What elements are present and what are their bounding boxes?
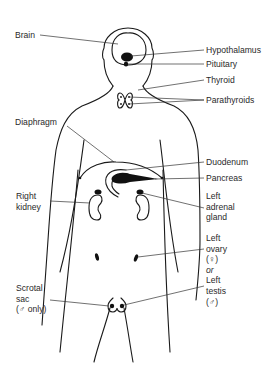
label-pancreas: Pancreas [206, 173, 242, 184]
label-line: gland [206, 212, 235, 223]
label-pituitary: Pituitary [206, 59, 237, 70]
left-adrenal-gland [137, 190, 144, 195]
label-line: Right [16, 191, 41, 202]
left-testis [120, 304, 124, 308]
thyroid-outline [118, 93, 133, 108]
label-line-or: or [206, 265, 227, 276]
label-scrotal-sac: Scrotal sac (♂ only) [16, 283, 46, 315]
label-line: sac [16, 294, 46, 305]
parathyroid-dot [120, 96, 122, 98]
left-inner-arm [60, 140, 84, 272]
hypothalamus-shape [121, 53, 133, 62]
right-testis [110, 304, 114, 308]
right-kidney-outline [89, 195, 102, 220]
left-adrenal-leader [142, 193, 204, 208]
right-inner-leg [124, 308, 133, 362]
diaphragm-leader [67, 126, 114, 162]
right-kidney-leader [50, 201, 90, 203]
left-ovary [133, 254, 139, 262]
right-shoulder-outline [143, 86, 200, 300]
label-line: (♂ only) [16, 304, 46, 315]
label-line: (♀) [206, 254, 227, 265]
label-line: ovary [206, 244, 227, 255]
label-line: kidney [16, 202, 41, 213]
parathyroid-dot [120, 103, 122, 105]
thyroid-leader [138, 80, 204, 90]
left-ovary-leader [138, 249, 204, 257]
label-parathyroids: Parathyroids [206, 95, 254, 106]
right-ovary [94, 253, 99, 261]
label-left-ovary-or-testis: Left ovary (♀) or Left testis (♂) [206, 233, 227, 307]
scrotal-sac-leader [50, 300, 109, 306]
label-thyroid: Thyroid [206, 75, 235, 86]
label-left-adrenal-gland: Left adrenal gland [206, 191, 235, 223]
label-line: testis [206, 286, 227, 297]
pituitary-shape [124, 62, 128, 67]
left-kidney-outline [136, 195, 149, 220]
label-line: Left [206, 233, 227, 244]
left-inner-leg [94, 308, 110, 362]
label-line: adrenal [206, 202, 235, 213]
label-line: Scrotal [16, 283, 46, 294]
label-brain: Brain [15, 30, 35, 41]
label-line: (♂) [206, 297, 227, 308]
diaphragm-junction [79, 177, 82, 180]
pancreas-shape [112, 173, 159, 184]
label-duodenum: Duodenum [206, 157, 248, 168]
label-hypothalamus: Hypothalamus [206, 45, 261, 56]
parathyroid-leader-1 [129, 97, 204, 100]
right-adrenal-gland [95, 190, 102, 195]
left-testis-leader [124, 286, 204, 305]
label-diaphragm: Diaphragm [15, 117, 57, 128]
endocrine-diagram: Brain Hypothalamus Pituitary Thyroid Par… [0, 0, 277, 368]
label-line: Left [206, 275, 227, 286]
duodenum-leader [126, 162, 204, 170]
label-line: Left [206, 191, 235, 202]
hypothalamus-leader [131, 50, 204, 56]
label-right-kidney: Right kidney [16, 191, 41, 212]
